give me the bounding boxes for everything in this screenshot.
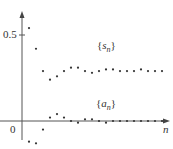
data-point: [133, 70, 135, 72]
data-point: [161, 70, 163, 72]
brace-close: }: [111, 97, 116, 109]
data-point: [77, 67, 79, 69]
data-point: [28, 141, 30, 143]
data-point: [56, 75, 58, 77]
data-point: [70, 67, 72, 69]
data-point: [119, 70, 121, 72]
data-point: [63, 70, 65, 72]
data-point: [154, 70, 156, 72]
data-point: [161, 120, 163, 122]
y-axis-arrow-icon: [20, 11, 25, 18]
data-point: [140, 120, 142, 122]
y-tick-label-half: 0.5: [3, 29, 17, 40]
data-point: [35, 48, 37, 50]
data-point: [56, 113, 58, 115]
data-point: [112, 120, 114, 122]
data-point: [28, 27, 30, 29]
data-point: [63, 116, 65, 118]
data-point: [91, 72, 93, 74]
data-point: [105, 122, 107, 124]
data-point: [42, 129, 44, 131]
y-tick-label-zero: 0: [10, 124, 16, 135]
data-point: [147, 120, 149, 122]
chart-plot: [0, 0, 173, 149]
series-a-points: [28, 113, 163, 144]
data-point: [147, 70, 149, 72]
data-point: [98, 120, 100, 122]
data-point: [84, 118, 86, 120]
data-point: [91, 118, 93, 120]
series-s-points: [28, 27, 163, 81]
data-point: [112, 68, 114, 70]
data-point: [49, 116, 51, 118]
data-point: [133, 120, 135, 122]
data-point: [42, 70, 44, 72]
data-point: [126, 120, 128, 122]
data-point: [70, 120, 72, 122]
data-point: [35, 142, 37, 144]
data-point: [140, 68, 142, 70]
brace-close: }: [111, 39, 116, 51]
series-a-label: {an}: [96, 98, 116, 112]
x-axis-label: n: [163, 124, 169, 135]
data-point: [84, 70, 86, 72]
data-point: [98, 70, 100, 72]
data-point: [119, 120, 121, 122]
data-point: [126, 70, 128, 72]
data-point: [49, 79, 51, 81]
data-point: [105, 68, 107, 70]
data-point: [154, 120, 156, 122]
data-point: [77, 122, 79, 124]
series-s-label: {sn}: [97, 40, 116, 54]
